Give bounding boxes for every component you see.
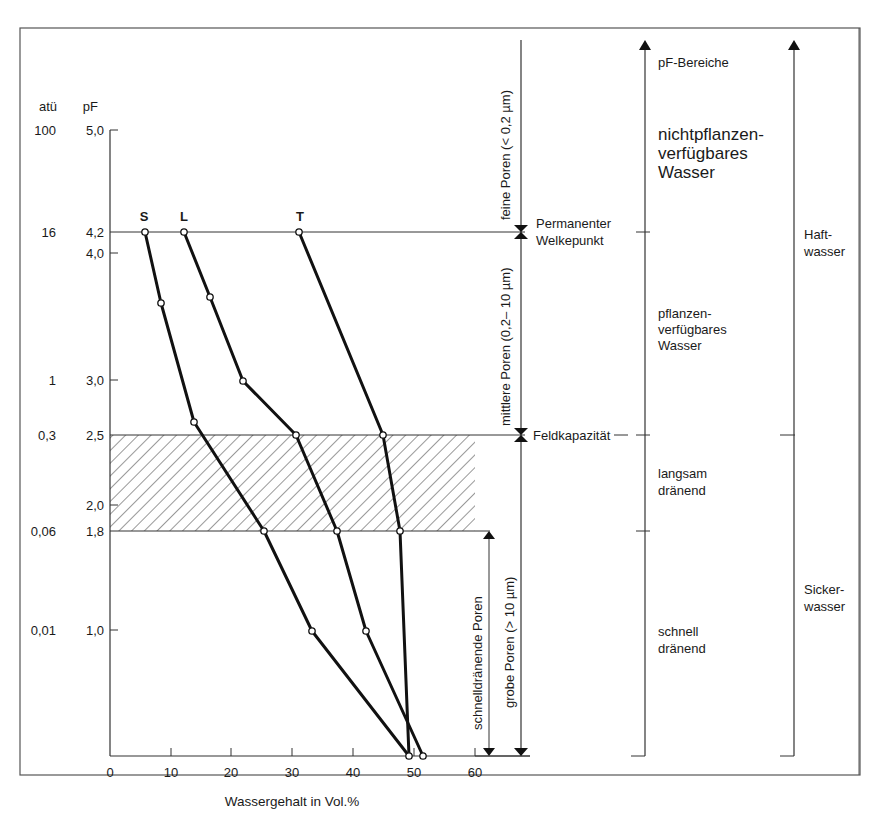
- arrow-up-icon: [483, 531, 495, 539]
- series-label-T: T: [296, 209, 304, 224]
- pf-range-available-water: pflanzen- verfügbares Wasser: [658, 306, 727, 353]
- range-label: schnell: [658, 624, 699, 639]
- medium-pores-label: mittlere Poren (0,2– 10 µm): [498, 268, 513, 427]
- pf-tick-label: 1,0: [86, 623, 104, 638]
- pf-tick-label: 4,2: [86, 225, 104, 240]
- data-point: [293, 432, 299, 438]
- arrow-down-icon: [483, 748, 495, 756]
- data-point: [158, 300, 164, 306]
- arrow-up-icon: [514, 435, 528, 442]
- range-label: verfügbares: [658, 144, 748, 163]
- water-type-label: wasser: [803, 599, 846, 614]
- data-point: [380, 432, 386, 438]
- pf-tick-label: 5,0: [86, 123, 104, 138]
- arrow-down-icon: [514, 428, 528, 435]
- water-type-label: Haft-: [804, 227, 832, 242]
- arrow-up-icon: [514, 232, 528, 239]
- range-label: dränend: [658, 483, 706, 498]
- x-tick-label: 60: [468, 765, 482, 780]
- data-point: [207, 294, 213, 300]
- arrow-down-icon: [514, 748, 528, 756]
- range-label: dränend: [658, 641, 706, 656]
- atu-tick-label: 100: [34, 123, 56, 138]
- x-tick-labels: 0 10 20 30 40 50 60: [106, 765, 482, 780]
- x-axis-ticks: [171, 748, 475, 756]
- water-type-label: wasser: [803, 244, 846, 259]
- x-tick-label: 0: [106, 765, 113, 780]
- pf-ranges-header: pF-Bereiche: [658, 55, 729, 70]
- data-point: [363, 628, 369, 634]
- series-label-L: L: [180, 209, 188, 224]
- coarse-pores-label: grobe Poren (> 10 µm): [502, 577, 517, 708]
- range-label: Wasser: [658, 338, 702, 353]
- pf-tick-labels: 5,0 4,2 4,0 3,0 2,5 2,0 1,8 1,0: [86, 123, 104, 638]
- range-label: langsam: [658, 466, 707, 481]
- atu-axis-label: atü: [39, 99, 57, 114]
- pf-tick-label: 4,0: [86, 246, 104, 261]
- data-point: [420, 753, 426, 759]
- x-axis-title: Wassergehalt in Vol.%: [225, 794, 360, 809]
- series-labels: S L T: [140, 209, 304, 224]
- range-label: verfügbares: [658, 322, 727, 337]
- data-point: [240, 378, 246, 384]
- data-point: [142, 229, 148, 235]
- water-type-label: Sicker-: [804, 582, 844, 597]
- data-point: [181, 229, 187, 235]
- water-type-sickerwasser: Sicker- wasser: [803, 582, 846, 614]
- soil-water-retention-chart: atü pF 5,0 4,2 4,0 3,0 2,5 2,0 1,8 1,0 1…: [0, 0, 879, 838]
- data-point: [406, 753, 412, 759]
- pf-tick-label: 3,0: [86, 373, 104, 388]
- water-type-haftwasser: Haft- wasser: [803, 227, 846, 259]
- pf-tick-label: 2,5: [86, 428, 104, 443]
- pf-range-fast-drain: schnell dränend: [658, 624, 706, 656]
- atu-tick-label: 0,06: [31, 524, 56, 539]
- feldkapazitaet-label: Feldkapazität: [533, 428, 611, 443]
- x-tick-label: 10: [164, 765, 178, 780]
- data-point: [334, 528, 340, 534]
- data-point: [296, 229, 302, 235]
- pf-axis-label: pF: [83, 99, 98, 114]
- fine-pores-label: feine Poren (< 0,2 µm): [498, 90, 513, 220]
- data-point: [397, 528, 403, 534]
- range-label: nichtpflanzen-: [658, 125, 764, 144]
- atu-tick-label: 0,3: [38, 428, 56, 443]
- x-tick-label: 50: [407, 765, 421, 780]
- data-point: [191, 419, 197, 425]
- fast-draining-pores-label: schnelldränende Poren: [470, 596, 485, 730]
- x-tick-label: 30: [285, 765, 299, 780]
- arrow-up-icon: [639, 40, 651, 50]
- shaded-drainage-region: [110, 435, 475, 531]
- data-point: [309, 628, 315, 634]
- x-tick-label: 40: [346, 765, 360, 780]
- atu-tick-label: 0,01: [31, 623, 56, 638]
- atu-tick-labels: 100 16 1 0,3 0,06 0,01: [31, 123, 56, 638]
- x-tick-label: 20: [224, 765, 238, 780]
- welkepunkt-label-line1: Permanenter: [536, 216, 612, 231]
- pf-tick-label: 1,8: [86, 524, 104, 539]
- welkepunkt-label-line2: Welkepunkt: [536, 233, 604, 248]
- y-axis-ticks: [110, 130, 118, 630]
- range-label: Wasser: [658, 163, 715, 182]
- pf-range-unavailable-water: nichtpflanzen- verfügbares Wasser: [658, 125, 764, 182]
- arrow-down-icon: [514, 225, 528, 232]
- pf-tick-label: 2,0: [86, 498, 104, 513]
- range-label: pflanzen-: [658, 306, 711, 321]
- arrow-up-icon: [788, 40, 800, 50]
- series-label-S: S: [140, 209, 149, 224]
- data-point: [261, 528, 267, 534]
- atu-tick-label: 16: [42, 225, 56, 240]
- atu-tick-label: 1: [49, 373, 56, 388]
- pf-range-slow-drain: langsam dränend: [658, 466, 707, 498]
